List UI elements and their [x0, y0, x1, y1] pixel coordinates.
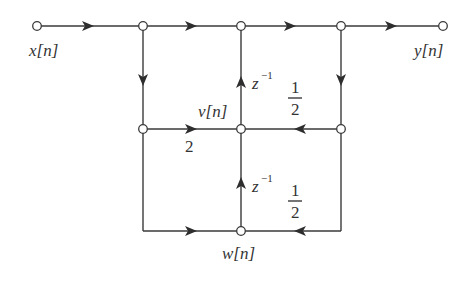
half-lower-num: 1 [291, 181, 300, 200]
node-input [33, 22, 42, 31]
node-a [139, 22, 148, 31]
label-v: v[n] [198, 102, 227, 121]
delay-lower-exp: −1 [261, 172, 273, 184]
half-upper-num: 1 [291, 78, 300, 97]
delay-lower-base: z [251, 177, 259, 196]
half-upper-den: 2 [291, 100, 300, 119]
label-output: y[n] [412, 41, 443, 60]
node-output [439, 22, 448, 31]
node-e [337, 125, 346, 134]
delay-upper-exp: −1 [261, 69, 273, 81]
node-v [237, 125, 246, 134]
node-d [139, 125, 148, 134]
half-lower-den: 2 [291, 203, 300, 222]
node-w [237, 227, 246, 236]
gain-two: 2 [185, 137, 194, 156]
node-b [237, 22, 246, 31]
signal-flow-graph: x[n] y[n] v[n] w[n] 2 z −1 z −1 1 2 1 2 [0, 0, 473, 284]
delay-upper-base: z [251, 74, 259, 93]
label-input: x[n] [28, 41, 58, 60]
node-c [337, 22, 346, 31]
label-w: w[n] [222, 244, 255, 263]
